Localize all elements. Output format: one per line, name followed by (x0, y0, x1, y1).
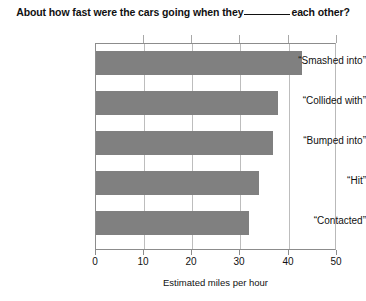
bottom-tick-0 (95, 250, 96, 255)
bottom-tick-20 (191, 250, 192, 255)
chart-figure: About how fast were the cars going when … (0, 0, 366, 301)
y-label-bumped-into: “Bumped into” (278, 135, 366, 146)
bar-contacted (96, 211, 249, 235)
x-tick-label-10: 10 (128, 256, 158, 267)
top-tick-20 (191, 35, 192, 43)
bottom-tick-10 (143, 250, 144, 255)
x-tick-label-0: 0 (80, 256, 110, 267)
top-tick-40 (288, 35, 289, 43)
bottom-tick-40 (288, 250, 289, 255)
bar-hit (96, 171, 259, 195)
y-label-collided-with: “Collided with” (278, 95, 366, 106)
bar-bumped-into (96, 131, 273, 155)
bar-smashed-into (96, 51, 302, 75)
x-tick-label-40: 40 (273, 256, 303, 267)
top-tick-50 (336, 35, 337, 43)
top-tick-10 (143, 35, 144, 43)
x-tick-label-20: 20 (176, 256, 206, 267)
y-label-hit: “Hit” (278, 175, 366, 186)
chart-title: About how fast were the cars going when … (0, 6, 366, 18)
x-tick-label-50: 50 (321, 256, 351, 267)
bar-collided-with (96, 91, 278, 115)
top-tick-30 (239, 35, 240, 43)
x-axis-title: Estimated miles per hour (95, 277, 336, 288)
x-tick-label-30: 30 (224, 256, 254, 267)
y-label-smashed-into: “Smashed into” (278, 55, 366, 66)
chart-title-suffix: each other? (291, 6, 349, 18)
chart-title-prefix: About how fast were the cars going when … (16, 6, 243, 18)
title-blank-underscore (244, 14, 290, 15)
bottom-tick-50 (336, 250, 337, 255)
bottom-tick-30 (239, 250, 240, 255)
y-label-contacted: “Contacted” (278, 215, 366, 226)
